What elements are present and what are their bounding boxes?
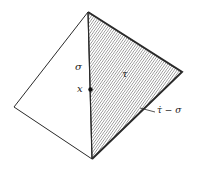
tau-label: τ: [122, 69, 128, 79]
point-x: [88, 87, 92, 91]
boundary-label: τ̇ − σ: [157, 106, 181, 115]
sigma-label: σ: [75, 62, 82, 72]
x-label: x: [77, 84, 83, 94]
simplex-diagram: σ x τ τ̇ − σ: [0, 0, 197, 174]
diagram-graphic: [0, 0, 197, 174]
